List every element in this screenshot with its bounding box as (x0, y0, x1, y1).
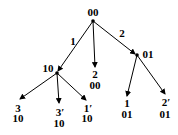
edge-00-to-leaf-2-00 (93, 21, 95, 67)
leaf-1prime-bottom: 10 (82, 112, 94, 124)
leaf-3prime-bottom: 10 (54, 117, 66, 129)
leaf-2-00-bottom: 00 (90, 79, 102, 91)
leaf-3-bottom: 10 (13, 112, 25, 124)
node-00-dot (91, 19, 95, 23)
edge-01-to-leaf-2prime (137, 55, 165, 94)
edge-10-to-leaf-3prime (57, 73, 59, 103)
edge-01-to-leaf-1 (127, 55, 137, 96)
leaf-2prime-bottom: 01 (160, 108, 171, 120)
tree-diagram: 00 10 01 1 2 2 00 3 10 3′ 10 1′ 10 1 01 … (0, 0, 178, 135)
node-01-dot (135, 53, 139, 57)
edge-label-1: 1 (70, 35, 76, 47)
edge-00-to-01 (93, 21, 135, 54)
node-10-label: 10 (43, 62, 55, 74)
leaf-1-bottom: 01 (122, 108, 133, 120)
node-00-label: 00 (88, 6, 100, 18)
leaf-2prime-top: 2′ (162, 96, 171, 108)
edge-10-to-leaf-1prime (57, 73, 86, 100)
node-01-label: 01 (143, 48, 154, 60)
edge-10-to-leaf-3 (20, 73, 57, 99)
edge-label-2: 2 (119, 27, 125, 39)
node-10-dot (55, 71, 59, 75)
